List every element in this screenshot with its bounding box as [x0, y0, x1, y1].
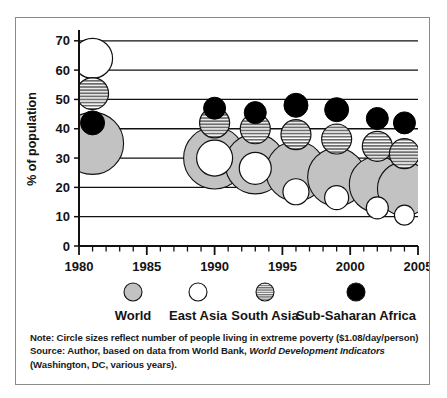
bubble-south-asia-2002: [362, 131, 392, 161]
y-tick-label-30: 30: [56, 151, 70, 166]
y-tick-label-40: 40: [56, 121, 70, 136]
legend-swatch-sub-saharan-africa: [347, 283, 365, 301]
source-prefix: Source: Author, based on data from World…: [30, 345, 249, 356]
bubble-sub-saharan-africa-2002: [366, 107, 388, 129]
note-line-3: (Washington, DC, various years).: [30, 358, 418, 371]
x-tick-label-1995: 1995: [268, 259, 297, 274]
bubble-east-asia-2004: [394, 205, 414, 225]
note-line-1: Note: Circle sizes reflect number of peo…: [30, 331, 418, 344]
source-publication: World Development Indicators: [249, 345, 385, 356]
bubble-sub-saharan-africa-1981: [81, 111, 105, 135]
legend-swatch-world: [124, 283, 142, 301]
bubble-east-asia-1996: [283, 179, 309, 205]
bubble-sub-saharan-africa-1990: [204, 97, 226, 119]
y-tick-label-0: 0: [63, 239, 70, 254]
x-tick-label-1990: 1990: [200, 259, 229, 274]
y-tick-label-50: 50: [56, 92, 70, 107]
y-tick-label-20: 20: [56, 180, 70, 195]
data-bubbles: [16, 18, 429, 247]
legend-label-south-asia: South Asia: [231, 308, 299, 323]
bubble-south-asia-1996: [281, 120, 311, 150]
bubble-sub-saharan-africa-1999: [325, 98, 349, 122]
bubble-south-asia-2004: [389, 139, 419, 169]
chart-canvas: 010203040506070 198019851990199520002005…: [16, 18, 429, 384]
legend-label-east-asia: East Asia: [169, 308, 228, 323]
bubble-east-asia-1990: [197, 140, 233, 176]
x-axis-tick-labels: 198019851990199520002005: [65, 259, 429, 274]
y-axis-title-text: % of population: [25, 92, 39, 186]
x-tick-label-2005: 2005: [404, 259, 429, 274]
x-tick-label-1980: 1980: [65, 259, 94, 274]
legend-label-sub-saharan-africa: Sub-Saharan Africa: [296, 308, 417, 323]
note-line-2: Source: Author, based on data from World…: [30, 344, 418, 357]
bubble-sub-saharan-africa-1996: [284, 93, 308, 117]
legend-swatch-south-asia: [256, 283, 274, 301]
y-axis-title: % of population: [25, 92, 39, 186]
bubble-east-asia-2002: [366, 197, 388, 219]
legend-label-world: World: [115, 308, 152, 323]
bubble-south-asia-1981: [77, 78, 109, 110]
y-tick-label-70: 70: [56, 33, 70, 48]
figure-note: Note: Circle sizes reflect number of peo…: [30, 331, 418, 371]
x-tick-label-2000: 2000: [336, 259, 365, 274]
bubble-south-asia-1999: [322, 124, 352, 154]
bubble-sub-saharan-africa-1993: [244, 102, 266, 124]
bubble-east-asia-1999: [325, 186, 349, 210]
x-tick-label-1985: 1985: [132, 259, 161, 274]
legend-swatch-east-asia: [189, 283, 207, 301]
figure-frame: 010203040506070 198019851990199520002005…: [15, 17, 430, 385]
y-tick-label-60: 60: [56, 63, 70, 78]
y-tick-label-10: 10: [56, 209, 70, 224]
poverty-bubble-chart: 010203040506070 198019851990199520002005…: [16, 18, 429, 384]
chart-legend: WorldEast AsiaSouth AsiaSub-Saharan Afri…: [115, 283, 417, 323]
bubble-sub-saharan-africa-2004: [393, 112, 415, 134]
bubble-east-asia-1993: [239, 152, 271, 184]
